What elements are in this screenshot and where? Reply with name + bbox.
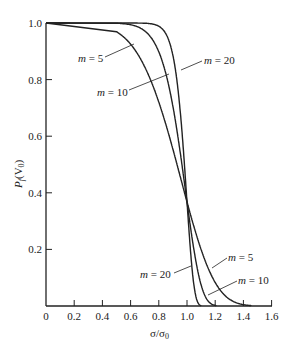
leader-lines [105, 44, 237, 295]
label-top-m20: m = 20 [204, 54, 235, 66]
y-axis-label: Pf(V0) [12, 159, 26, 189]
axes [46, 23, 272, 306]
y-tick-label: 0.2 [28, 243, 42, 255]
label-top-m5: m = 5 [78, 52, 104, 64]
weibull-failure-probability-chart: 00.20.40.60.81.01.21.41.6 0.20.40.60.81.… [0, 0, 290, 357]
y-ticks [46, 80, 52, 250]
label-bottom-m10: m = 10 [238, 274, 269, 286]
x-tick-label: 1.0 [180, 310, 194, 322]
x-tick-label: 1.4 [237, 310, 251, 322]
x-tick-label: 0.8 [152, 310, 166, 322]
y-tick-label: 0.6 [28, 130, 42, 142]
x-tick-label: 1.2 [208, 310, 222, 322]
x-tick-label: 0.2 [67, 310, 81, 322]
y-tick-label: 1.0 [28, 17, 42, 29]
x-axis-label: σ/σ0 [150, 327, 169, 341]
curve-m20 [46, 23, 201, 306]
y-tick-label: 0.4 [28, 187, 42, 199]
y-tick-label: 0.8 [28, 74, 42, 86]
x-tick-labels: 00.20.40.60.81.01.21.41.6 [43, 310, 279, 322]
x-tick-label: 0.4 [96, 310, 110, 322]
label-bottom-m20: m = 20 [140, 268, 171, 280]
x-tick-label: 0 [43, 310, 49, 322]
label-top-m10: m = 10 [97, 86, 128, 98]
label-bottom-m5: m = 5 [228, 251, 254, 263]
x-tick-label: 1.6 [265, 310, 279, 322]
y-tick-labels: 0.20.40.60.81.0 [28, 17, 42, 255]
x-tick-label: 0.6 [124, 310, 138, 322]
